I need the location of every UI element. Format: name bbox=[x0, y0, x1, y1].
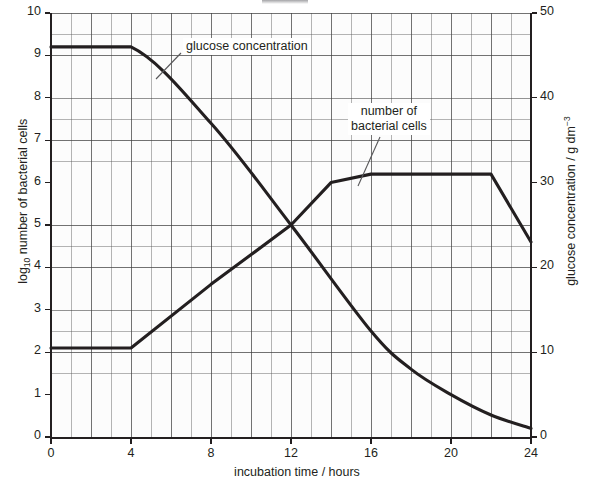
tick-left-10 bbox=[45, 12, 50, 13]
tick-bottom-0 bbox=[50, 439, 51, 444]
axis-right-title: glucose concentration / g dm−3 bbox=[562, 101, 578, 301]
series-line-bacterial-cells bbox=[51, 174, 531, 348]
annotation-glucose-concentration: glucose concentration bbox=[183, 38, 311, 55]
tick-bottom-24 bbox=[530, 439, 531, 444]
annotation-bacteria-line1: number of bbox=[351, 104, 427, 119]
axis-bottom-title: incubation time / hours bbox=[0, 465, 594, 479]
tick-right-40 bbox=[532, 97, 537, 98]
tick-label-bottom-8: 8 bbox=[191, 446, 231, 460]
tick-label-right-40: 40 bbox=[540, 89, 554, 103]
annotation-bacterial-cells: number of bacterial cells bbox=[348, 103, 430, 135]
tick-right-30 bbox=[532, 182, 537, 183]
axis-right-title-text: glucose concentration / g dm bbox=[564, 126, 578, 286]
tick-label-bottom-4: 4 bbox=[111, 446, 151, 460]
tick-label-right-0: 0 bbox=[540, 428, 547, 442]
tick-bottom-8 bbox=[210, 439, 211, 444]
tick-left-7 bbox=[45, 140, 50, 141]
series-line-glucose-concentration bbox=[51, 47, 531, 429]
tick-left-1 bbox=[45, 394, 50, 395]
tick-label-left-1: 1 bbox=[11, 386, 41, 400]
leader-line-bacteria bbox=[358, 137, 380, 186]
tick-label-left-2: 2 bbox=[11, 343, 41, 357]
axis-right-title-superscript: −3 bbox=[562, 116, 572, 126]
axis-left-title-rest: number of bacterial cells bbox=[16, 119, 30, 258]
tick-left-5 bbox=[45, 224, 50, 225]
tick-bottom-4 bbox=[130, 439, 131, 444]
tick-left-8 bbox=[45, 97, 50, 98]
tick-left-0 bbox=[45, 436, 50, 437]
tick-left-2 bbox=[45, 352, 50, 353]
tick-bottom-20 bbox=[450, 439, 451, 444]
tick-left-3 bbox=[45, 309, 50, 310]
tick-left-4 bbox=[45, 267, 50, 268]
tick-label-bottom-16: 16 bbox=[351, 446, 391, 460]
tick-bottom-12 bbox=[290, 439, 291, 444]
axis-left-title-log: log bbox=[16, 267, 30, 284]
tick-right-10 bbox=[532, 352, 537, 353]
tick-label-left-0: 0 bbox=[11, 428, 41, 442]
tick-right-0 bbox=[532, 436, 537, 437]
tick-label-bottom-0: 0 bbox=[31, 446, 71, 460]
tick-label-left-3: 3 bbox=[11, 301, 41, 315]
curves-overlay bbox=[0, 0, 594, 487]
tick-left-9 bbox=[45, 55, 50, 56]
tick-label-bottom-20: 20 bbox=[431, 446, 471, 460]
tick-label-left-9: 9 bbox=[11, 46, 41, 60]
tick-left-6 bbox=[45, 182, 50, 183]
tick-label-right-20: 20 bbox=[540, 258, 554, 272]
tick-label-right-30: 30 bbox=[540, 174, 554, 188]
tick-label-right-10: 10 bbox=[540, 343, 554, 357]
tick-right-20 bbox=[532, 267, 537, 268]
tick-right-50 bbox=[532, 12, 537, 13]
axis-left-title-subscript: 10 bbox=[22, 258, 32, 267]
tick-label-bottom-24: 24 bbox=[511, 446, 551, 460]
tick-label-left-10: 10 bbox=[11, 4, 41, 18]
tick-bottom-16 bbox=[370, 439, 371, 444]
axis-left-title: log10 number of bacterial cells bbox=[16, 101, 33, 301]
chart-container: 012345678910 01020304050 04812162024 log… bbox=[0, 0, 594, 487]
tick-label-right-50: 50 bbox=[540, 4, 554, 18]
tick-label-bottom-12: 12 bbox=[271, 446, 311, 460]
annotation-bacteria-line2: bacterial cells bbox=[351, 119, 427, 134]
